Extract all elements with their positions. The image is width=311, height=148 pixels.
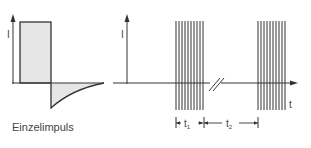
t2-label: t2: [226, 118, 233, 130]
y-axis-arrow-icon: [11, 14, 16, 22]
time-axis-arrow-icon: [290, 81, 298, 86]
positive-pulse: [20, 22, 51, 83]
caption: Einzelimpuls: [12, 121, 74, 133]
arrowhead-icon: [204, 121, 208, 125]
dimension-t1: t1: [176, 117, 203, 130]
time-axis-label: t: [289, 99, 292, 110]
dimension-t2: t2: [204, 117, 258, 130]
y-axis-arrow-icon: [125, 14, 130, 22]
pulse-burst-2: [258, 21, 285, 110]
arrowhead-icon: [254, 121, 258, 125]
negative-pulse-fill: [51, 83, 104, 108]
arrowhead-icon: [199, 121, 203, 125]
single-pulse-diagram: I Einzelimpuls: [7, 14, 104, 133]
pulse-burst-diagram: I t t1: [113, 14, 298, 130]
t1-label: t1: [184, 118, 191, 130]
y-axis-label: I: [7, 29, 10, 40]
arrowhead-icon: [176, 121, 180, 125]
y-axis-label: I: [121, 29, 124, 40]
pulse-burst-1: [176, 21, 203, 110]
diagram-canvas: I Einzelimpuls I t: [0, 0, 311, 148]
